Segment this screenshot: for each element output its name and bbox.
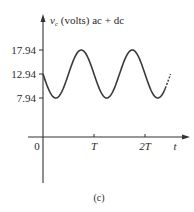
y-axis-label-rest: (volts) ac + dc (58, 14, 124, 27)
x-axis-label: t (173, 140, 177, 152)
y-tick-label: 12.94 (11, 68, 36, 80)
y-axis-label: vc (volts) ac + dc (50, 14, 124, 28)
waveform-solid (43, 50, 165, 98)
origin-label: 0 (34, 140, 40, 152)
x-axis-arrow-icon (182, 135, 190, 140)
chart: 17.94 12.94 7.94 T 2T 0 t vc (volts) ac … (0, 0, 194, 212)
x-tick-label: T (91, 140, 98, 152)
y-tick-label: 7.94 (17, 92, 37, 104)
figure-caption: (c) (93, 192, 104, 204)
waveform-dashed-tail (165, 74, 170, 88)
y-ticks: 17.94 12.94 7.94 (11, 44, 43, 104)
y-tick-label: 17.94 (11, 44, 36, 56)
y-axis-arrow-icon (41, 14, 46, 22)
x-tick-label: 2T (139, 140, 152, 152)
